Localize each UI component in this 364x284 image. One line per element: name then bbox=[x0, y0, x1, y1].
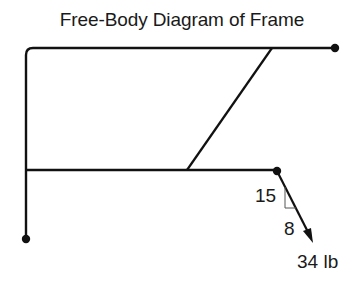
slope-run-label: 8 bbox=[284, 219, 295, 238]
diagonal-strut bbox=[187, 48, 272, 170]
frame-drawing bbox=[0, 0, 364, 284]
slope-rise-label: 15 bbox=[255, 186, 276, 205]
top-bar-and-left-post bbox=[26, 48, 335, 239]
top-right-pin bbox=[331, 44, 339, 52]
bottom-left-pin bbox=[22, 235, 30, 243]
free-body-diagram: Free-Body Diagram of Frame 15 8 34 lb bbox=[0, 0, 364, 284]
arrowhead-icon bbox=[303, 228, 313, 243]
load-magnitude-label: 34 lb bbox=[297, 252, 338, 271]
